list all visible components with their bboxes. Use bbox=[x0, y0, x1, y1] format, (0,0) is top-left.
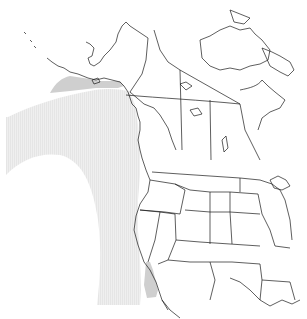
gulf-coast bbox=[260, 300, 300, 306]
great-bear-lake bbox=[180, 82, 192, 90]
year-round-range-california bbox=[144, 262, 158, 298]
baffin-island bbox=[262, 48, 294, 76]
bc-alberta-border bbox=[154, 108, 176, 150]
us-canada-border bbox=[152, 172, 260, 180]
us-state-borders bbox=[140, 178, 295, 300]
arctic-islands-north bbox=[230, 10, 250, 24]
alaska-north-coast bbox=[86, 22, 148, 66]
canada-60-parallel bbox=[126, 95, 240, 104]
yukon-nwt-border bbox=[154, 30, 180, 70]
alaska-canada-border bbox=[130, 38, 148, 92]
nunavut-border bbox=[180, 70, 240, 104]
arctic-archipelago bbox=[200, 26, 270, 70]
aleutian-islands bbox=[24, 32, 36, 48]
great-lakes bbox=[270, 176, 290, 190]
lake-winnipeg bbox=[222, 136, 228, 152]
hudson-bay-coast bbox=[240, 80, 285, 130]
range-map bbox=[0, 0, 307, 319]
baja-california bbox=[162, 300, 180, 318]
great-slave-lake bbox=[190, 108, 202, 116]
sask-manitoba-border bbox=[210, 100, 211, 160]
non-breeding-range bbox=[6, 89, 141, 305]
alberta-sask-border bbox=[180, 70, 182, 150]
manitoba-ontario-border bbox=[240, 104, 260, 160]
